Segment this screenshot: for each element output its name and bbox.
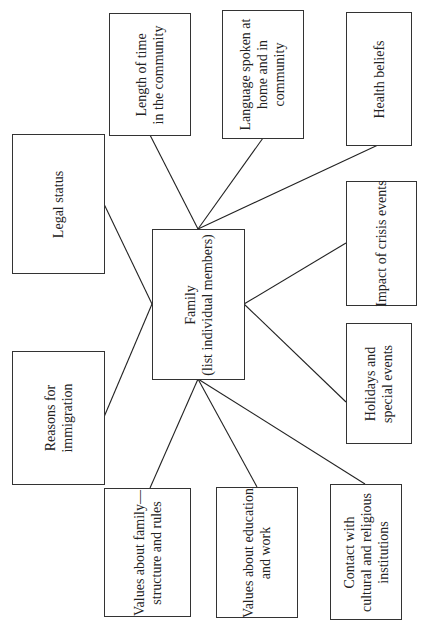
- node-label: Reasons for immigration: [42, 383, 76, 452]
- node-length-of-time: Length of time in the community: [109, 13, 191, 136]
- node-label: Health beliefs: [371, 40, 388, 118]
- node-label: Family (list individual members): [182, 234, 216, 376]
- link-language: [198, 138, 263, 229]
- node-label: Language spoken at home and in community: [238, 19, 289, 131]
- node-health-beliefs: Health beliefs: [346, 12, 412, 146]
- node-label: Holidays and special events: [362, 344, 396, 422]
- link-crisis: [244, 243, 346, 304]
- node-values-education: Values about education and work: [216, 487, 298, 618]
- node-legal-status: Legal status: [12, 134, 105, 274]
- node-label: Legal status: [50, 170, 67, 237]
- node-holidays: Holidays and special events: [346, 323, 412, 444]
- node-language: Language spoken at home and in community: [222, 10, 304, 139]
- node-label: Values about family— structure and rules: [131, 490, 165, 616]
- node-label: Length of time in the community: [133, 25, 167, 124]
- node-reasons-immigration: Reasons for immigration: [12, 351, 105, 485]
- node-values-family: Values about family— structure and rules: [104, 488, 191, 617]
- node-contact-institutions: Contact with cultural and religious inst…: [330, 484, 402, 620]
- link-reasons: [104, 304, 152, 417]
- node-label: Values about education and work: [240, 488, 274, 618]
- node-label: Contact with cultural and religious inst…: [341, 493, 392, 612]
- link-length: [150, 135, 198, 229]
- node-center-family: Family (list individual members): [152, 229, 245, 380]
- family-culture-diagram: Family (list individual members) Length …: [0, 0, 427, 625]
- node-label: Impact of crisis events: [373, 180, 390, 306]
- link-contact: [198, 379, 365, 484]
- link-legal: [104, 204, 152, 304]
- link-values-family: [150, 379, 198, 488]
- node-impact-crisis: Impact of crisis events: [346, 181, 417, 306]
- link-values-education: [198, 379, 257, 487]
- link-holidays: [244, 304, 346, 402]
